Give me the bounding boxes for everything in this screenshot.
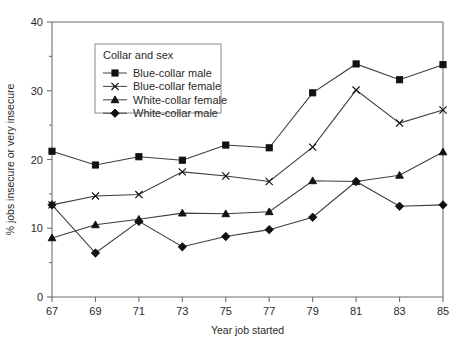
series-white-collar-male [48, 177, 447, 257]
marker-triangle [439, 148, 447, 155]
series-polyline [52, 152, 443, 238]
y-tick-label: 30 [31, 85, 43, 97]
x-axis: 67697173757779818385 [46, 297, 449, 317]
marker-x [353, 86, 360, 93]
y-tick-label: 0 [37, 291, 43, 303]
x-tick-label: 69 [89, 305, 101, 317]
y-tick-label: 40 [31, 16, 43, 28]
legend-item-label: Blue-collar female [133, 80, 221, 92]
x-tick-label: 81 [350, 305, 362, 317]
line-chart: 01020304067697173757779818385Year job st… [0, 0, 463, 353]
y-tick-label: 10 [31, 222, 43, 234]
x-axis-title: Year job started [211, 324, 284, 336]
marker-diamond [178, 243, 186, 251]
marker-triangle [265, 208, 273, 215]
marker-triangle [178, 209, 186, 216]
marker-x [309, 144, 316, 151]
marker-diamond [265, 225, 273, 233]
legend: Collar and sexBlue-collar maleBlue-colla… [95, 44, 227, 119]
series-white-collar-female [48, 148, 447, 241]
marker-diamond [439, 201, 447, 209]
x-tick-label: 77 [263, 305, 275, 317]
legend-item-label: White-collar female [133, 94, 227, 106]
marker-x [396, 119, 403, 126]
marker-triangle [396, 171, 404, 178]
marker-square [396, 77, 402, 83]
x-tick-label: 79 [307, 305, 319, 317]
series-polyline [52, 182, 443, 254]
x-tick-label: 71 [133, 305, 145, 317]
marker-square [92, 162, 98, 168]
y-axis: 010203040 [31, 16, 52, 303]
marker-square [440, 62, 446, 68]
marker-diamond [222, 232, 230, 240]
legend-item-label: White-collar male [133, 107, 218, 119]
marker-square [136, 154, 142, 160]
marker-diamond [395, 202, 403, 210]
marker-square [353, 61, 359, 67]
legend-title: Collar and sex [103, 49, 174, 61]
x-tick-label: 85 [437, 305, 449, 317]
x-tick-label: 75 [220, 305, 232, 317]
x-tick-label: 73 [176, 305, 188, 317]
marker-square [310, 90, 316, 96]
marker-square [266, 145, 272, 151]
marker-square [223, 142, 229, 148]
chart-figure: 01020304067697173757779818385Year job st… [0, 0, 463, 353]
y-tick-label: 20 [31, 154, 43, 166]
marker-square [179, 157, 185, 163]
legend-item-label: Blue-collar male [133, 67, 212, 79]
marker-square [49, 148, 55, 154]
x-tick-label: 67 [46, 305, 58, 317]
marker-square-legend [112, 70, 118, 76]
x-tick-label: 83 [393, 305, 405, 317]
y-axis-title: % jobs insecure or very insecure [4, 83, 16, 235]
